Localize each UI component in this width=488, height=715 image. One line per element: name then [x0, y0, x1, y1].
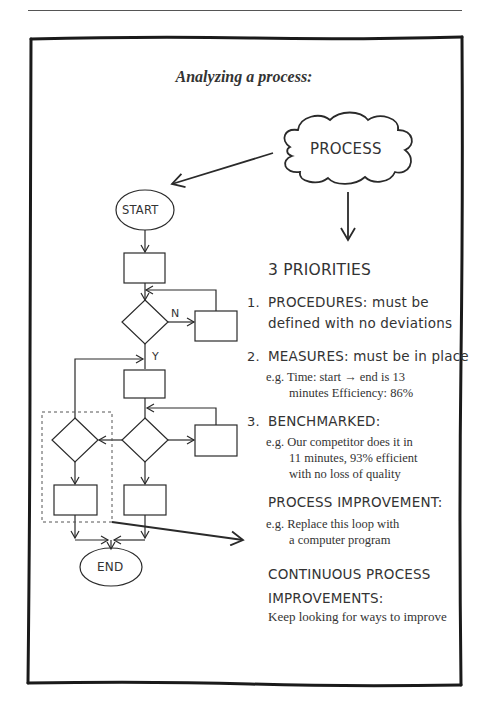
decision-diamond — [122, 300, 168, 344]
priority-3: BENCHMARKED: — [268, 411, 380, 432]
process-box — [124, 485, 166, 515]
priority-2-example: e.g. Time: start → end is 13 minutes Eff… — [266, 369, 413, 401]
priority-3-number: 3. — [247, 414, 260, 429]
start-label: START — [122, 203, 158, 217]
priority-2-number: 2. — [247, 349, 260, 364]
continuous-text: Keep looking for ways to improve — [268, 609, 447, 625]
process-improvement-example: e.g. Replace this loop with a computer p… — [266, 516, 399, 548]
priority-1-label: PROCEDURES: — [268, 294, 368, 310]
end-label: END — [97, 560, 123, 574]
priority-1-text-2: defined with no deviations — [268, 315, 452, 331]
yes-label: Y — [152, 350, 159, 363]
priority-1-text: must be — [372, 294, 429, 310]
priority-1-number: 1. — [247, 295, 260, 310]
cloud-label: PROCESS — [310, 140, 382, 158]
example-prefix: e.g. — [266, 370, 284, 384]
example-prefix: e.g. — [266, 435, 284, 449]
priority-3-label: BENCHMARKED: — [268, 413, 380, 429]
example-prefix: e.g. — [266, 517, 284, 531]
priority-2-text: must be in place — [353, 348, 469, 364]
priority-3-example: e.g. Our competitor does it in 11 minute… — [266, 434, 417, 482]
no-label: N — [171, 307, 179, 320]
process-box — [195, 311, 237, 341]
priority-1: PROCEDURES: must be defined with no devi… — [268, 292, 452, 334]
page-title: Analyzing a process: — [0, 68, 488, 86]
continuous-heading: CONTINUOUS PROCESS IMPROVEMENTS: — [268, 562, 431, 610]
priorities-heading: 3 PRIORITIES — [268, 261, 371, 279]
decision-diamond — [122, 418, 168, 462]
loop-highlight — [42, 412, 112, 522]
process-box — [54, 485, 97, 515]
priority-2: MEASURES: must be in place — [268, 346, 469, 367]
process-box — [195, 425, 237, 456]
decision-diamond — [52, 418, 98, 462]
process-box — [124, 370, 165, 398]
priority-2-label: MEASURES: — [268, 348, 349, 364]
process-improvement-heading: PROCESS IMPROVEMENT: — [268, 492, 442, 513]
process-box — [124, 253, 165, 283]
